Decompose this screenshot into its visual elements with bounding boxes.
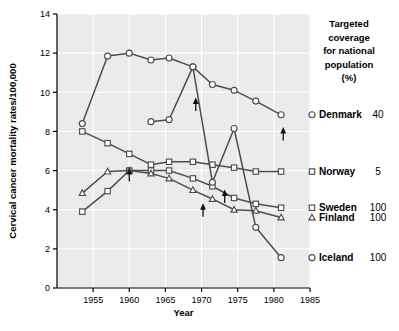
data-point-marker xyxy=(231,165,236,170)
data-point-marker xyxy=(190,64,196,70)
x-tick-label: 1960 xyxy=(119,295,139,305)
data-point-marker xyxy=(278,169,283,174)
data-point-marker xyxy=(148,119,154,125)
data-point-marker xyxy=(166,168,171,173)
legend-item-coverage-value: 5 xyxy=(375,166,381,177)
x-tick-label: 1975 xyxy=(228,295,248,305)
data-point-marker xyxy=(278,255,284,261)
legend-item-label: Norway xyxy=(319,166,356,177)
data-point-marker xyxy=(148,57,154,63)
x-tick-label: 1985 xyxy=(300,295,320,305)
legend-item-label: Finland xyxy=(319,212,355,223)
y-tick-label: 14 xyxy=(40,9,50,19)
x-tick-label: 1970 xyxy=(192,295,212,305)
legend-header-line: coverage xyxy=(328,32,370,43)
legend-item-label: Iceland xyxy=(319,252,353,263)
data-point-marker xyxy=(166,117,172,123)
x-tick-label: 1965 xyxy=(155,295,175,305)
data-point-marker xyxy=(278,112,284,118)
data-point-marker xyxy=(105,53,111,59)
data-point-marker xyxy=(231,87,237,93)
legend-item-finland[interactable]: Finland100 xyxy=(309,212,387,223)
data-point-marker xyxy=(79,121,85,127)
legend-header-line: (%) xyxy=(342,72,357,83)
data-point-marker xyxy=(253,98,259,104)
x-tick-label: 1980 xyxy=(264,295,284,305)
legend-marker-icon xyxy=(309,169,314,174)
data-point-marker xyxy=(253,224,259,230)
legend-item-norway[interactable]: Norway5 xyxy=(309,166,381,177)
legend: Targetedcoveragefor nationalpopulation(%… xyxy=(309,18,387,263)
data-point-marker xyxy=(278,205,283,210)
legend-header-line: Targeted xyxy=(329,18,369,29)
data-point-marker xyxy=(148,162,153,167)
data-point-marker xyxy=(209,179,215,185)
legend-item-coverage-value: 40 xyxy=(372,109,384,120)
cervical-cancer-mortality-line-chart: 024681012141955196019651970197519801985C… xyxy=(0,0,399,331)
x-tick-label: 1955 xyxy=(83,295,103,305)
data-point-marker xyxy=(231,195,236,200)
x-axis-ticks: 1955196019651970197519801985 xyxy=(83,288,320,305)
legend-item-coverage-value: 100 xyxy=(370,212,387,223)
data-point-marker xyxy=(80,129,85,134)
data-point-marker xyxy=(253,201,258,206)
data-point-marker xyxy=(105,188,110,193)
legend-item-coverage-value: 100 xyxy=(370,252,387,263)
data-point-marker xyxy=(126,50,132,56)
data-point-marker xyxy=(190,176,195,181)
legend-marker-icon xyxy=(309,255,315,261)
y-axis-title: Cervical cancer mortality rates/100,000 xyxy=(7,63,18,238)
data-point-marker xyxy=(210,162,215,167)
data-point-marker xyxy=(253,169,258,174)
data-point-marker xyxy=(209,81,215,87)
y-axis-ticks: 02468101214 xyxy=(40,9,57,293)
y-tick-label: 6 xyxy=(45,166,50,176)
legend-item-iceland[interactable]: Iceland100 xyxy=(309,252,387,263)
data-point-marker xyxy=(80,209,85,214)
chart-figure: 024681012141955196019651970197519801985C… xyxy=(0,0,399,331)
data-point-marker xyxy=(190,159,195,164)
data-point-marker xyxy=(166,159,171,164)
data-point-marker xyxy=(105,140,110,145)
y-tick-label: 8 xyxy=(45,127,50,137)
legend-item-label: Denmark xyxy=(319,109,362,120)
legend-marker-icon xyxy=(309,112,315,118)
data-point-marker xyxy=(231,125,237,131)
data-point-marker xyxy=(127,151,132,156)
y-tick-label: 0 xyxy=(45,283,50,293)
legend-header-line: for national xyxy=(323,45,375,56)
legend-header-line: population xyxy=(325,59,374,70)
y-tick-label: 12 xyxy=(40,48,50,58)
x-axis-title: Year xyxy=(173,307,193,318)
legend-item-denmark[interactable]: Denmark40 xyxy=(309,109,384,120)
y-tick-label: 10 xyxy=(40,88,50,98)
data-point-marker xyxy=(166,55,172,61)
y-tick-label: 4 xyxy=(45,205,50,215)
legend-marker-icon xyxy=(309,205,314,210)
y-tick-label: 2 xyxy=(45,244,50,254)
